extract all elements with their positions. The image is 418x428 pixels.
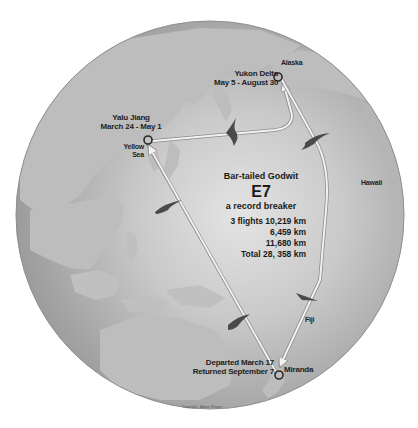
flight-2: 6,459 km <box>214 227 306 238</box>
flight-distances: 3 flights 10,219 km 6,459 km 11,680 km T… <box>214 216 308 261</box>
miranda-returned: Returned September 7 <box>190 367 274 376</box>
yukon-delta-dates: May 5 - August 30 <box>214 78 278 87</box>
label-hawaii: Hawaii <box>361 179 382 187</box>
copyright: Copyright - Adrian Riegen <box>182 405 222 409</box>
subtitle: a record breaker <box>214 201 308 211</box>
flight-1: 3 flights 10,219 km <box>214 216 306 227</box>
yukon-delta-name: Yukon Delta <box>214 69 278 78</box>
species-title: Bar-tailed Godwit <box>214 171 308 181</box>
migration-map: Alaska Yukon Delta May 5 - August 30 Yal… <box>0 0 418 428</box>
flight-3: 11,680 km <box>214 238 306 249</box>
label-miranda-dates: Departed March 17 Returned September 7 <box>190 358 274 376</box>
label-yukon-delta: Yukon Delta May 5 - August 30 <box>214 69 278 87</box>
label-yalu-jiang: Yalu Jiang March 24 - May 1 <box>98 113 164 131</box>
info-panel: Bar-tailed Godwit E7 a record breaker 3 … <box>214 171 308 260</box>
yellow-sea-line2: Sea <box>118 151 144 159</box>
yalu-jiang-name: Yalu Jiang <box>98 113 164 122</box>
miranda-departed: Departed March 17 <box>190 358 274 367</box>
label-miranda: Miranda <box>284 365 313 374</box>
label-alaska: Alaska <box>281 59 302 67</box>
label-fiji: Fiji <box>305 316 314 324</box>
yalu-jiang-dates: March 24 - May 1 <box>98 122 164 131</box>
bird-id: E7 <box>214 183 308 201</box>
label-yellow-sea: Yellow Sea <box>118 143 144 159</box>
flight-total: Total 28, 358 km <box>214 249 306 260</box>
yellow-sea-line1: Yellow <box>118 143 144 151</box>
